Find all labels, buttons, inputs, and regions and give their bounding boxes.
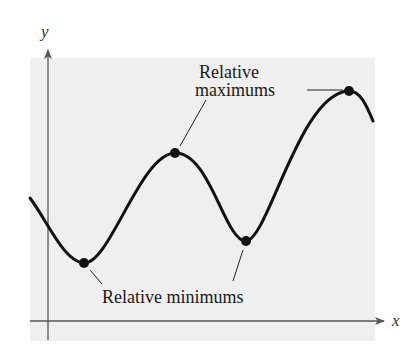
x-axis-label: x: [391, 311, 400, 330]
relative-maximum-point: [344, 86, 354, 96]
maximums-label-line2: maximums: [195, 80, 275, 100]
relative-minimum-point: [241, 236, 251, 246]
relative-minimum-point: [79, 258, 89, 268]
extrema-diagram: y x Relative maximums Relative minimums: [0, 0, 416, 358]
maximums-label-line1: Relative: [199, 62, 259, 82]
minimums-label: Relative minimums: [102, 287, 244, 307]
relative-maximum-point: [170, 148, 180, 158]
y-axis-label: y: [39, 22, 49, 41]
